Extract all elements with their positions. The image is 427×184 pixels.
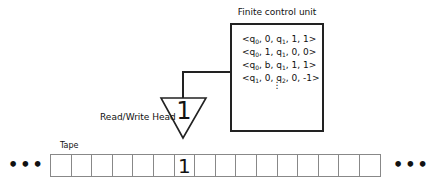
tape-cell: 1 bbox=[175, 155, 196, 176]
tape-cell bbox=[195, 155, 216, 176]
tape-cell bbox=[298, 155, 319, 176]
tape-ellipsis-right: ••• bbox=[393, 155, 427, 174]
tape-cell bbox=[339, 155, 360, 176]
finite-control-unit-box: <q0, 0, q1, 1, 1><q0, 1, q1, 0, 0><q0, b… bbox=[230, 23, 324, 132]
tape-cell bbox=[113, 155, 134, 176]
tape-cell bbox=[92, 155, 113, 176]
read-write-head-label: Read/Write Head bbox=[100, 112, 176, 122]
tape-cell bbox=[51, 155, 72, 176]
finite-control-unit-label: Finite control unit bbox=[230, 7, 324, 17]
tape-cell bbox=[319, 155, 340, 176]
tape: 1 bbox=[50, 154, 381, 177]
tape-label: Tape bbox=[60, 141, 78, 150]
tape-ellipsis-left: ••• bbox=[8, 155, 45, 174]
tape-cell bbox=[154, 155, 175, 176]
tape-cell bbox=[216, 155, 237, 176]
tape-cell bbox=[236, 155, 257, 176]
tape-cell bbox=[360, 155, 381, 176]
tape-cell bbox=[133, 155, 154, 176]
tape-cell bbox=[278, 155, 299, 176]
rules-continuation: ⋮ bbox=[232, 83, 322, 87]
tape-cell bbox=[72, 155, 93, 176]
tape-cell bbox=[257, 155, 278, 176]
